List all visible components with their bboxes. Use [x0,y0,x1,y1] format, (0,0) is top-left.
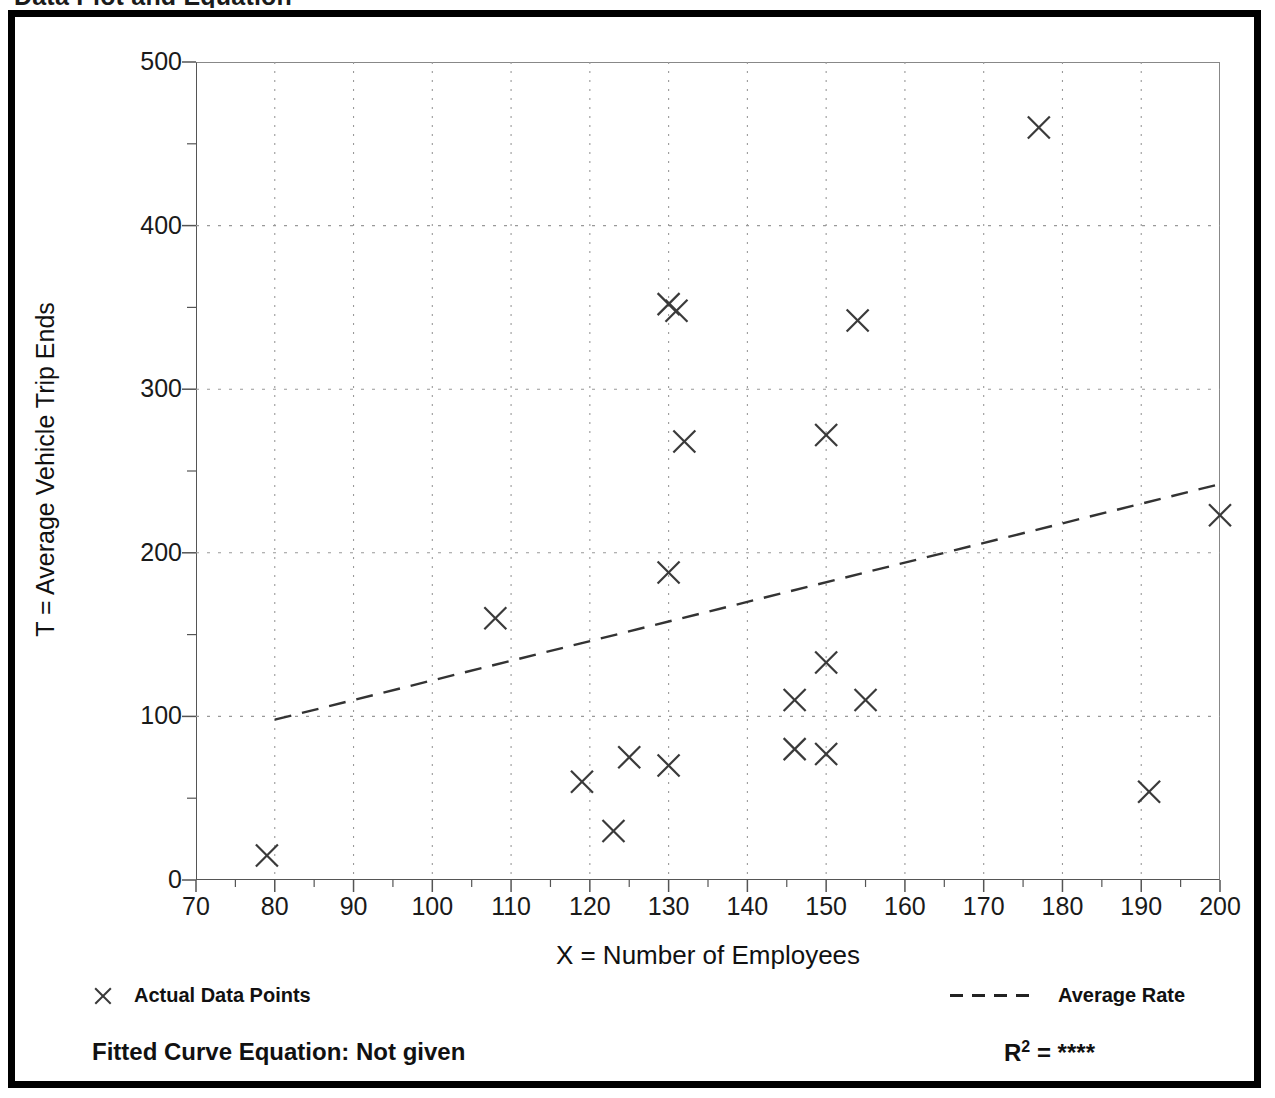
x-axis-tick-label: 130 [634,892,704,921]
x-axis-tick-label: 90 [319,892,389,921]
x-axis-tick-label: 80 [240,892,310,921]
x-axis-tick-label: 140 [712,892,782,921]
legend-item-average-rate: Average Rate [950,984,1185,1007]
x-axis-tick-label: 70 [161,892,231,921]
y-axis-tick-label: 100 [104,701,182,730]
r-squared-prefix: R [1004,1039,1021,1066]
x-marker-icon [92,985,114,1007]
r-squared-exponent: 2 [1021,1038,1030,1055]
r-squared-equals-value: = **** [1037,1039,1095,1066]
chart-container: 0100200300400500 70809010011012013014015… [0,0,1275,1098]
x-axis-tick-labels: 708090100110120130140150160170180190200 [0,892,1275,932]
x-axis-tick-label: 190 [1106,892,1176,921]
x-axis-tick-label: 150 [791,892,861,921]
y-axis-tick-label: 200 [104,538,182,567]
y-axis-tick-label: 500 [104,47,182,76]
legend: Actual Data Points Average Rate [0,984,1275,1024]
fitted-curve-equation: Fitted Curve Equation: Not given [92,1038,465,1066]
dashed-line-icon [950,994,1036,997]
x-axis-tick-label: 100 [397,892,467,921]
x-axis-tick-label: 200 [1185,892,1255,921]
y-axis-tick-label: 0 [104,865,182,894]
x-axis-tick-label: 170 [949,892,1019,921]
y-axis-tick-label: 400 [104,211,182,240]
legend-label-actual-data-points: Actual Data Points [134,984,311,1007]
x-axis-title: X = Number of Employees [196,940,1220,971]
y-axis-title: T = Average Vehicle Trip Ends [31,210,60,730]
plot-area [196,62,1220,880]
x-axis-tick-label: 120 [555,892,625,921]
y-axis-tick-labels: 0100200300400500 [100,0,182,1098]
y-axis-tick-label: 300 [104,374,182,403]
x-axis-tick-label: 180 [1027,892,1097,921]
legend-label-average-rate: Average Rate [1058,984,1185,1007]
x-axis-tick-label: 110 [476,892,546,921]
legend-item-actual-data-points: Actual Data Points [92,984,311,1007]
r-squared-value: R2 = **** [1004,1038,1095,1067]
x-axis-tick-label: 160 [870,892,940,921]
footer: Fitted Curve Equation: Not given R2 = **… [0,1038,1275,1078]
